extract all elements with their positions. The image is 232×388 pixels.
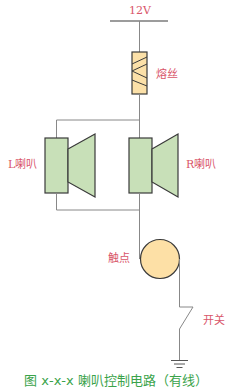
switch-icon [180, 307, 194, 329]
right-speaker-label: R喇叭 [186, 159, 216, 170]
right-speaker-icon [129, 134, 178, 197]
fuse-label: 熔丝 [156, 69, 178, 80]
left-speaker-label: L喇叭 [8, 159, 37, 170]
left-speaker-icon [45, 134, 95, 197]
fuse-icon [132, 52, 147, 94]
voltage-label: 12V [129, 5, 151, 16]
contact-label: 触点 [108, 253, 130, 264]
wire-top-bus [57, 120, 140, 138]
wire-bottom-bus [57, 193, 140, 210]
switch-label: 开关 [203, 315, 225, 326]
contact-icon [141, 240, 180, 279]
figure-caption: 图 x-x-x 喇叭控制电路（有线） [0, 374, 232, 387]
wire-contact-switch [180, 259, 194, 307]
ground-icon [171, 361, 188, 368]
